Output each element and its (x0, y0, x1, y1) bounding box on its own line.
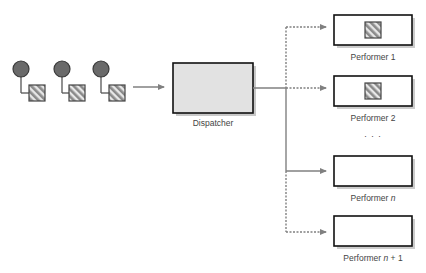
performer-box (334, 156, 412, 186)
task-square-icon (109, 85, 125, 101)
performer-label: Performer 2 (351, 113, 396, 123)
performer-n: Performer n (334, 156, 415, 203)
ellipsis: . . . (364, 129, 382, 139)
client-circle-icon (13, 61, 29, 77)
dispatcher-label: Dispatcher (193, 118, 234, 128)
dispatcher-diagram: Dispatcher Performer 1 Performer 2 . . .… (0, 0, 426, 273)
task-square-icon (365, 22, 381, 38)
performer-label: Performer n (351, 193, 396, 203)
dispatcher-box (173, 63, 253, 113)
performer-2: Performer 2 (334, 76, 415, 123)
task-square-icon (29, 85, 45, 101)
client-1 (13, 61, 45, 101)
performer-label: Performer 1 (351, 52, 396, 62)
client-2 (54, 61, 85, 101)
client-3 (93, 61, 125, 101)
client-circle-icon (93, 61, 109, 77)
performer-1: Performer 1 (334, 15, 415, 62)
performer-box (334, 216, 412, 246)
task-square-icon (365, 83, 381, 99)
performer-n-plus-1: Performer n + 1 (334, 216, 415, 263)
performer-label: Performer n + 1 (343, 253, 403, 263)
dispatcher-node: Dispatcher (173, 63, 256, 128)
task-square-icon (69, 85, 85, 101)
client-circle-icon (54, 61, 70, 77)
